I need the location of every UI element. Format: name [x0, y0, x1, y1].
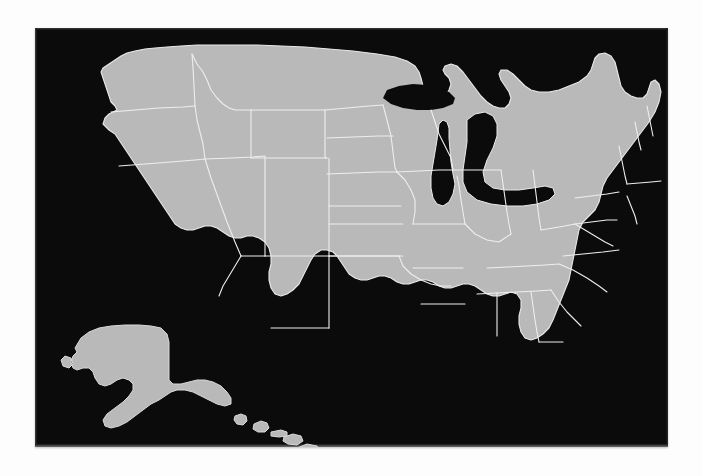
united-states-map-graphic[interactable]: [35, 28, 668, 447]
hawaii-molokai-island: [271, 430, 287, 437]
hawaii-oahu-island: [253, 421, 269, 432]
hawaii-kauai-island: [234, 414, 247, 425]
border-va-wv-md: [575, 224, 613, 246]
border-ma-ct-ri: [627, 181, 661, 184]
map-figure: [0, 0, 702, 476]
border-ca-az: [219, 256, 241, 296]
alaska-inset-group: [61, 325, 231, 428]
contiguous-us-landmass: [101, 45, 661, 340]
alaska-landmass: [61, 325, 231, 428]
border-ny-nj: [627, 196, 637, 224]
hawaii-inset-group: [234, 414, 323, 447]
map-panel[interactable]: [35, 28, 668, 447]
contiguous-us-group: [101, 45, 661, 340]
